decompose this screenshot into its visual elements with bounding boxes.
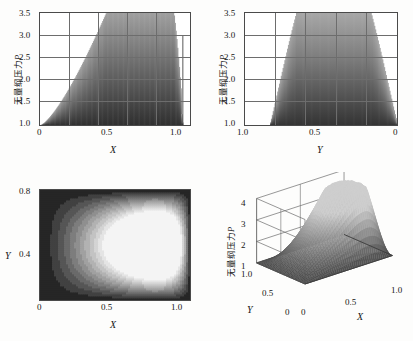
- ytick-2.0-topleft: 2.0: [19, 75, 30, 84]
- xtick-0-bottomright: 0: [301, 308, 306, 317]
- gridline-h: [245, 57, 397, 58]
- xtick-0-topright: 0: [393, 128, 398, 137]
- ytick-2.5-topright: 2.5: [224, 53, 235, 62]
- xtick-1.0-bottomleft: 1.0: [171, 303, 182, 312]
- ytick-1.0-topright: 1.0: [224, 119, 235, 128]
- xtick-0.5-topright: 0.5: [309, 128, 320, 137]
- gridline-h: [40, 57, 190, 58]
- axis-label-y-axis-topright: Y: [317, 145, 323, 155]
- gridline-h: [40, 101, 190, 102]
- ytick-2.5-topleft: 2.5: [19, 53, 30, 62]
- ytick-2.0-topright: 2.0: [224, 75, 235, 84]
- ytick-0.5-bottomright: 0.5: [262, 289, 273, 298]
- subplot-top-left: 无量纲压力P 3.5 3.0 2.5 2.0 1.5 1.0 0 0.5 1.0…: [0, 0, 205, 172]
- plot-area-top-left: [39, 12, 191, 126]
- xtick-0.5-topleft: 0.5: [101, 128, 112, 137]
- surface-fill-top-right: [245, 13, 397, 125]
- contour-map: [40, 190, 190, 300]
- xtick-0.5-bottomleft: 0.5: [101, 303, 112, 312]
- gridline-v: [98, 13, 99, 125]
- xtick-1.0-bottomright: 1.0: [391, 286, 402, 295]
- axis-label-y-bottomright: Y: [247, 305, 253, 315]
- gridline-h: [40, 35, 190, 36]
- ytick-0-bottomright: 0: [285, 308, 290, 317]
- axis-label-x-bottomleft: X: [110, 320, 116, 330]
- axis-label-x-topleft: X: [110, 145, 116, 155]
- xtick-0-topleft: 0: [37, 128, 42, 137]
- gridline-h: [245, 101, 397, 102]
- xtick-1.0-topleft: 1.0: [170, 128, 181, 137]
- ytick-1.0-topleft: 1.0: [19, 119, 30, 128]
- ytick-1.0-bottomright: 1.0: [241, 270, 252, 279]
- gridline-h: [245, 79, 397, 80]
- gridline-v: [336, 13, 337, 125]
- gridline-h: [40, 79, 190, 80]
- axis-label-y-bottomleft: Y: [5, 251, 11, 261]
- surface-fill-top-left: [40, 13, 190, 125]
- ytick-1.5-topright: 1.5: [224, 97, 235, 106]
- gridline-v: [69, 13, 70, 125]
- ytick-3.5-topleft: 3.5: [19, 9, 30, 18]
- gridline-v: [275, 13, 276, 125]
- ytick-0.4-bottomleft: 0.4: [19, 250, 30, 259]
- subplot-top-right: 无量纲压力P 3.5 3.0 2.5 2.0 1.5 1.0 1.0 0.5 0…: [205, 0, 413, 172]
- xtick-0.5-bottomright: 0.5: [345, 298, 356, 307]
- subplot-bottom-right: 无量纲压力P 4 3 2 1 1.0 0.5 0 Y 0 0.5 1.0 X: [205, 172, 413, 341]
- xtick-0-bottomleft: 0: [37, 303, 42, 312]
- gridline-v: [305, 13, 306, 125]
- ytick-3.5-topright: 3.5: [224, 9, 235, 18]
- axis-label-x-bottomright: X: [357, 312, 363, 322]
- surface-3d: [205, 172, 413, 341]
- gridline-h: [245, 35, 397, 36]
- gridline-v: [156, 13, 157, 125]
- ytick-3.0-topright: 3.0: [224, 31, 235, 40]
- ytick-3.0-topleft: 3.0: [19, 31, 30, 40]
- plot-area-bottom-left: [39, 189, 191, 301]
- subplot-bottom-left: Y 0.8 0.4 0 0.5 1.0 X: [0, 172, 205, 341]
- ytick-0.8-bottomleft: 0.8: [19, 187, 30, 196]
- gridline-v: [366, 13, 367, 125]
- xtick-1.0-topright: 1.0: [237, 128, 248, 137]
- gridline-v: [127, 13, 128, 125]
- plot-area-top-right: [244, 12, 398, 126]
- ytick-1.5-topleft: 1.5: [19, 97, 30, 106]
